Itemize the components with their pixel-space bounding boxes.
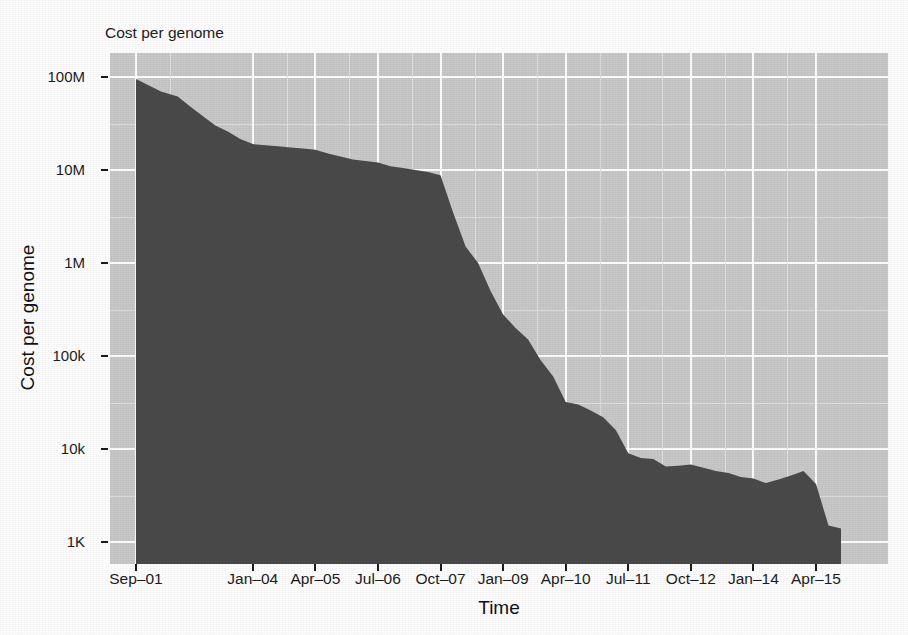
- y-tick-mark: [101, 448, 108, 450]
- y-tick-label: 10M: [0, 162, 85, 178]
- x-tick-label: Sep–01: [96, 570, 176, 588]
- x-tick-mark: [502, 564, 504, 571]
- y-tick-label: 10k: [0, 441, 85, 457]
- y-tick-label: 100M: [0, 69, 85, 85]
- x-tick-mark: [314, 564, 316, 571]
- x-tick-mark: [252, 564, 254, 571]
- area-series-path: [136, 79, 841, 564]
- page-title: Cost per genome: [105, 24, 224, 42]
- y-tick-label: 1M: [0, 255, 85, 271]
- y-tick-label: 1K: [0, 534, 85, 550]
- x-tick-mark: [627, 564, 629, 571]
- x-tick-mark: [690, 564, 692, 571]
- y-tick-mark: [101, 262, 108, 264]
- x-axis-title: Time: [110, 596, 888, 620]
- x-tick-mark: [752, 564, 754, 571]
- y-tick-mark: [101, 76, 108, 78]
- x-tick-mark: [135, 564, 137, 571]
- x-tick-mark: [565, 564, 567, 571]
- y-tick-label: 100k: [0, 348, 85, 364]
- y-tick-mark: [101, 169, 108, 171]
- x-tick-mark: [815, 564, 817, 571]
- x-tick-mark: [377, 564, 379, 571]
- x-tick-mark: [440, 564, 442, 571]
- plot-panel: [110, 53, 888, 564]
- chart-figure: Cost per genome Cost per genome Time 100…: [0, 0, 908, 635]
- y-tick-mark: [101, 355, 108, 357]
- y-tick-mark: [101, 541, 108, 543]
- x-tick-label: Apr–15: [776, 570, 856, 588]
- area-series: [110, 53, 888, 564]
